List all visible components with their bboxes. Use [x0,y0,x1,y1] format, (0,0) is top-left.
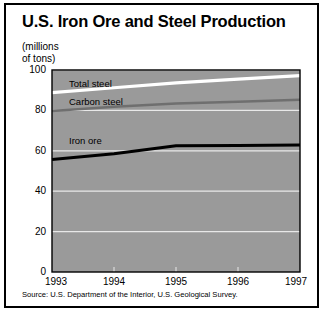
x-tick-label-1997: 1997 [276,276,316,287]
y-tick-label-80: 80 [20,104,46,115]
y-tick-label-60: 60 [20,145,46,156]
series-label-total-steel: Total steel [69,78,112,89]
chart-title: U.S. Iron Ore and Steel Production [22,12,286,31]
y-axis-units-line-2: of tons) [22,53,59,65]
y-tick-label-20: 20 [20,226,46,237]
x-tick-label-1995: 1995 [156,276,196,287]
y-tick-label-40: 40 [20,185,46,196]
x-tick-label-1996: 1996 [218,276,258,287]
source-note: Source: U.S. Department of the Interior,… [22,290,238,299]
series-label-iron-ore: Iron ore [69,135,102,146]
y-tick-label-100: 100 [20,64,46,75]
y-axis-units-line-1: (millions [22,41,59,53]
y-axis-units-label: (millions of tons) [22,41,59,64]
x-tick-label-1994: 1994 [94,276,134,287]
x-tick-label-1993: 1993 [36,276,76,287]
series-label-carbon-steel: Carbon steel [69,96,123,107]
chart-figure: U.S. Iron Ore and Steel Production (mill… [0,0,326,319]
